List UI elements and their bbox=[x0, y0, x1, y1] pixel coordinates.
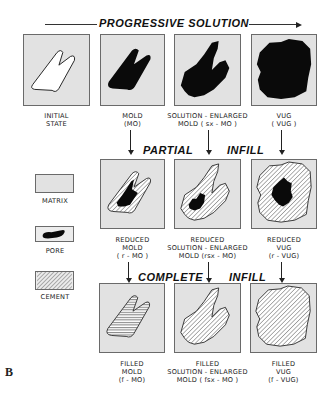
panel-reduced-solution-enlarged-mold bbox=[174, 159, 241, 229]
legend-cement-swatch bbox=[35, 271, 74, 290]
progressive-solution-heading: PROGRESSIVE SOLUTION bbox=[99, 17, 249, 29]
caption-filled-solution-enlarged-mold: FILLED SOLUTION - ENLARGED MOLD ( fsx - … bbox=[160, 360, 255, 385]
panel-filled-vug bbox=[250, 283, 317, 353]
mold-pore-icon bbox=[101, 35, 164, 105]
legend-pore-label: PORE bbox=[25, 247, 85, 255]
caption-filled-vug: FILLED VUG (f - VUG) bbox=[250, 360, 317, 385]
partial-infill-heading: INFILL bbox=[227, 144, 264, 156]
figure-letter: B bbox=[5, 365, 13, 380]
arrow-sx-mold-to-reduced-icon bbox=[208, 130, 209, 152]
arrow-reduced-vug-to-filled-icon bbox=[281, 262, 282, 280]
reduced-vug-cement-pore-icon bbox=[252, 160, 316, 228]
arrow-reduced-sx-mold-to-filled-icon bbox=[208, 262, 209, 280]
caption-filled-mold: FILLED MOLD (f - MO) bbox=[99, 360, 165, 385]
initial-grain-outline-icon bbox=[24, 35, 89, 105]
caption-reduced-mold: REDUCED MOLD ( r - MO ) bbox=[100, 236, 165, 261]
vug-pore-icon bbox=[252, 35, 316, 105]
panel-mold bbox=[100, 34, 165, 106]
progressive-solution-arrow-line-right bbox=[249, 24, 297, 25]
complete-infill-heading: INFILL bbox=[229, 271, 266, 283]
progressive-solution-arrow-line-left bbox=[45, 24, 97, 25]
caption-solution-enlarged-mold: SOLUTION - ENLARGED MOLD ( sx - MO ) bbox=[160, 112, 255, 128]
reduced-sx-mold-cement-pore-icon bbox=[175, 160, 240, 228]
complete-heading: COMPLETE bbox=[138, 271, 203, 283]
panel-reduced-mold bbox=[100, 159, 165, 229]
cement-hatch-icon bbox=[36, 272, 73, 289]
pore-blob-icon bbox=[36, 227, 73, 241]
panel-initial-state bbox=[23, 34, 90, 106]
filled-vug-cement-icon bbox=[251, 284, 316, 352]
filled-mold-cement-icon bbox=[100, 284, 164, 352]
caption-reduced-vug: REDUCED VUG (r - VUG) bbox=[251, 236, 317, 261]
panel-solution-enlarged-mold bbox=[174, 34, 241, 106]
panel-filled-solution-enlarged-mold bbox=[174, 283, 241, 353]
caption-initial-state: INITIAL STATE bbox=[23, 112, 90, 128]
legend-pore-swatch bbox=[35, 226, 74, 242]
arrow-reduced-mold-to-filled-icon bbox=[128, 262, 129, 280]
filled-sx-mold-cement-icon bbox=[175, 284, 240, 352]
panel-filled-mold bbox=[99, 283, 165, 353]
legend-cement-label: CEMENT bbox=[25, 293, 85, 301]
legend-matrix-swatch bbox=[35, 174, 74, 193]
arrow-mold-to-reduced-icon bbox=[130, 130, 131, 152]
panel-reduced-vug bbox=[251, 159, 317, 229]
arrow-vug-to-reduced-icon bbox=[281, 130, 282, 152]
arrow-head-right-icon bbox=[296, 22, 302, 28]
caption-reduced-solution-enlarged-mold: REDUCED SOLUTION - ENLARGED MOLD (rsx - … bbox=[160, 236, 255, 261]
panel-vug bbox=[251, 34, 317, 106]
partial-heading: PARTIAL bbox=[143, 144, 193, 156]
solution-enlarged-mold-pore-icon bbox=[175, 35, 240, 105]
caption-mold: MOLD (MO) bbox=[100, 112, 165, 128]
caption-vug: VUG ( VUG ) bbox=[251, 112, 317, 128]
reduced-mold-cement-pore-icon bbox=[101, 160, 164, 228]
legend-matrix-label: MATRIX bbox=[25, 197, 85, 205]
